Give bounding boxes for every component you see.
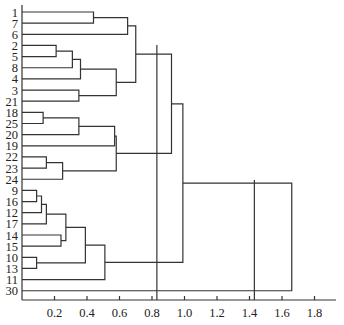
branch xyxy=(22,235,61,246)
leaf-label: 30 xyxy=(6,284,19,298)
x-tick-label: 1.0 xyxy=(177,306,193,320)
dendrogram-chart: 1762584321182520192223249161217141510131… xyxy=(0,0,344,325)
x-tick-label: 1.4 xyxy=(242,306,258,320)
x-tick-label: 1.8 xyxy=(307,306,323,320)
branch xyxy=(22,18,128,35)
x-tick-label: 1.6 xyxy=(274,306,290,320)
branch xyxy=(22,157,46,168)
branch xyxy=(22,257,37,268)
branch xyxy=(22,12,94,23)
x-tick-label: 0.6 xyxy=(112,306,128,320)
branch xyxy=(22,190,37,201)
branch xyxy=(22,59,81,79)
branch xyxy=(22,196,42,213)
branch xyxy=(22,90,79,101)
x-tick-label: 0.2 xyxy=(47,306,63,320)
branch xyxy=(22,112,43,123)
x-axis: 0.20.40.60.81.01.21.41.61.8 xyxy=(22,5,336,320)
branch xyxy=(22,118,79,135)
branch xyxy=(22,163,63,180)
branch xyxy=(22,45,56,56)
branch xyxy=(63,136,117,171)
x-tick-label: 0.4 xyxy=(79,306,95,320)
x-tick-label: 1.2 xyxy=(209,306,225,320)
branch xyxy=(22,204,46,224)
x-tick-label: 0.8 xyxy=(144,306,160,320)
branch xyxy=(22,51,72,68)
leaf-labels: 1762584321182520192223249161217141510131… xyxy=(6,6,19,299)
branch xyxy=(22,126,115,146)
branch xyxy=(46,214,66,240)
branch xyxy=(79,69,116,95)
branch xyxy=(116,54,171,153)
